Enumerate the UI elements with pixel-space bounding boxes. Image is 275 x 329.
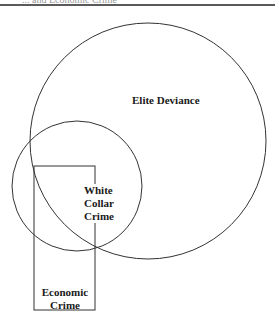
elite-deviance-circle bbox=[30, 23, 266, 259]
venn-diagram bbox=[0, 0, 275, 329]
wcc-line-2: Collar bbox=[84, 197, 112, 210]
wcc-line-3: Crime bbox=[84, 210, 112, 223]
wcc-line-1: White bbox=[84, 184, 112, 197]
white-collar-crime-circle bbox=[12, 121, 142, 251]
white-collar-crime-label: White Collar Crime bbox=[84, 184, 112, 223]
econ-line-2: Crime bbox=[36, 299, 94, 312]
elite-deviance-label: Elite Deviance bbox=[132, 94, 200, 107]
economic-crime-label: Economic Crime bbox=[36, 286, 94, 312]
econ-line-1: Economic bbox=[36, 286, 94, 299]
